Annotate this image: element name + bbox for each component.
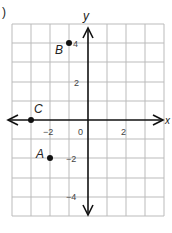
point-label-b: B bbox=[55, 43, 63, 57]
point-b bbox=[66, 40, 72, 46]
x-axis-label: x bbox=[164, 115, 171, 126]
part-label: ) bbox=[2, 5, 6, 19]
x-tick-0: 0 bbox=[78, 127, 83, 137]
y-tick-m4: −4 bbox=[66, 192, 76, 202]
y-tick-4: 4 bbox=[73, 39, 78, 49]
x-tick-m2: −2 bbox=[43, 127, 53, 137]
y-axis-label: y bbox=[82, 9, 90, 23]
y-tick-2: 2 bbox=[74, 78, 79, 88]
x-tick-2: 2 bbox=[121, 127, 126, 137]
point-label-a: A bbox=[35, 147, 44, 161]
point-label-c: C bbox=[34, 102, 43, 116]
y-tick-m2: −2 bbox=[66, 154, 76, 164]
point-a bbox=[47, 155, 53, 161]
coordinate-plane: ) y x B C A −2 0 2 4 2 −2 −4 bbox=[0, 0, 172, 233]
point-c bbox=[28, 117, 34, 123]
